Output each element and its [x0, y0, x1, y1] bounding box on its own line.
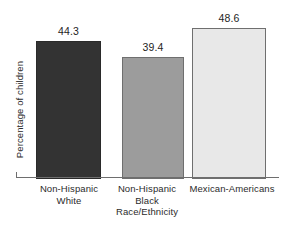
x-tick-label-2-line-0: Mexican-Americans	[180, 183, 284, 195]
bar-value-label-1: 39.4	[122, 41, 184, 53]
bar-2	[192, 28, 266, 179]
bar-group-2: 48.6	[192, 8, 266, 179]
x-tick-label-1-line-1: Black	[98, 195, 196, 207]
y-axis-title: Percentage of children	[14, 35, 25, 185]
bar-1	[122, 57, 184, 179]
x-axis-title: Race/Ethnicity	[104, 206, 190, 217]
bar-value-label-2: 48.6	[192, 12, 266, 24]
x-axis-line	[16, 177, 279, 178]
bar-chart-figure: Percentage of children 44.3 39.4 48.6 No…	[0, 0, 287, 233]
bar-value-label-0: 44.3	[36, 25, 101, 37]
plot-area: 44.3 39.4 48.6	[24, 8, 279, 179]
bar-group-1: 39.4	[122, 8, 184, 179]
x-tick-label-2: Mexican-Americans	[180, 183, 284, 195]
bar-group-0: 44.3	[36, 8, 101, 179]
y-axis-origin-tick	[16, 172, 17, 178]
bar-0	[36, 41, 101, 179]
